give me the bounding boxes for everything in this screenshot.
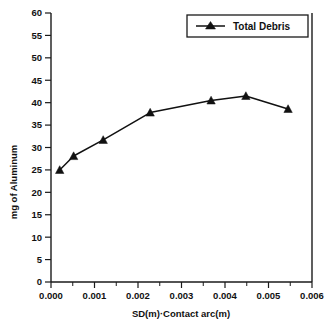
chart-background bbox=[0, 0, 333, 330]
y-tick-label: 55 bbox=[31, 30, 42, 41]
x-tick-label: 0.005 bbox=[257, 290, 281, 301]
x-axis-title: SD(m)·Contact arc(m) bbox=[132, 308, 230, 319]
y-tick-label: 45 bbox=[31, 75, 42, 86]
x-tick-label: 0.002 bbox=[126, 290, 150, 301]
y-tick-label: 0 bbox=[37, 276, 42, 287]
legend-entry-label: Total Debris bbox=[233, 21, 290, 32]
x-tick-label: 0.003 bbox=[170, 290, 194, 301]
line-chart: 051015202530354045505560 0.0000.0010.002… bbox=[0, 0, 333, 330]
y-tick-label: 60 bbox=[31, 7, 42, 18]
x-tick-label: 0.006 bbox=[300, 290, 324, 301]
y-tick-label: 10 bbox=[31, 232, 42, 243]
y-tick-label: 30 bbox=[31, 142, 42, 153]
y-tick-label: 50 bbox=[31, 52, 42, 63]
chart-container: 051015202530354045505560 0.0000.0010.002… bbox=[0, 0, 333, 330]
y-axis-title: mg of Aluminum bbox=[8, 145, 19, 220]
y-tick-label: 15 bbox=[31, 209, 42, 220]
y-tick-label: 35 bbox=[31, 119, 42, 130]
x-tick-label: 0.004 bbox=[213, 290, 237, 301]
x-tick-label: 0.001 bbox=[83, 290, 107, 301]
x-tick-label: 0.000 bbox=[39, 290, 63, 301]
y-tick-label: 20 bbox=[31, 187, 42, 198]
y-tick-label: 40 bbox=[31, 97, 42, 108]
y-tick-label: 5 bbox=[37, 254, 43, 265]
chart-legend: Total Debris bbox=[187, 15, 308, 37]
y-tick-label: 25 bbox=[31, 164, 42, 175]
